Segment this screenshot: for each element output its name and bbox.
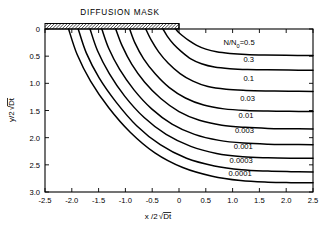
x-axis-title: x /2√Dt bbox=[145, 212, 172, 221]
x-tick-label: -1.5 bbox=[92, 196, 105, 205]
x-tick-label: 2.0 bbox=[281, 196, 292, 205]
x-tick-label: 2.5 bbox=[308, 196, 319, 205]
y-tick-label: 0.5 bbox=[29, 52, 40, 61]
y-tick-label: 0 bbox=[36, 25, 40, 34]
x-tick-label: -1.0 bbox=[119, 196, 132, 205]
contour-value-label: N/N0=0.5 bbox=[223, 38, 254, 49]
x-tick-label: -0.5 bbox=[146, 196, 159, 205]
y-tick-label: 1.5 bbox=[29, 107, 40, 116]
x-tick-label: 0 bbox=[177, 196, 181, 205]
y-axis-title: y/2√Dt bbox=[7, 97, 16, 122]
y-tick-label: 1.0 bbox=[29, 79, 40, 88]
x-tick-label: -2.0 bbox=[65, 196, 78, 205]
y-tick-labels: 00.51.01.52.02.53.0 bbox=[29, 25, 40, 197]
y-tick-label: 2.0 bbox=[29, 134, 40, 143]
x-tick-label: 0.5 bbox=[201, 196, 212, 205]
x-axis-title-text: x /2√Dt bbox=[145, 212, 172, 221]
y-tick-label: 3.0 bbox=[29, 188, 40, 197]
contour-value-label: 0.03 bbox=[240, 94, 255, 103]
contour-value-label: 0.1 bbox=[243, 74, 254, 83]
contour-value-label: 0.001 bbox=[234, 142, 253, 151]
contour-curve bbox=[163, 29, 313, 70]
contour-value-label: 0.3 bbox=[243, 55, 254, 64]
contour-curves bbox=[69, 29, 313, 183]
diffusion-contour-figure: -2.5-2.0-1.5-1.0-0.500.51.01.52.02.5 00.… bbox=[0, 0, 336, 226]
contour-value-label: 0.0003 bbox=[230, 156, 253, 165]
y-axis-title-text: y/2√Dt bbox=[7, 97, 16, 122]
contour-value-label: 0.0001 bbox=[228, 169, 251, 178]
x-tick-labels: -2.5-2.0-1.5-1.0-0.500.51.01.52.02.5 bbox=[38, 196, 318, 205]
contour-curve bbox=[78, 29, 313, 172]
contour-value-label: 0.01 bbox=[239, 111, 254, 120]
x-tick-label: -2.5 bbox=[38, 196, 51, 205]
diffusion-mask-band bbox=[45, 24, 179, 30]
x-tick-label: 1.5 bbox=[254, 196, 265, 205]
contour-value-label: 0.003 bbox=[235, 126, 254, 135]
contour-plot-svg: -2.5-2.0-1.5-1.0-0.500.51.01.52.02.5 00.… bbox=[0, 0, 336, 226]
y-tick-label: 2.5 bbox=[29, 161, 40, 170]
diffusion-mask-title-text: DIFFUSION MASK bbox=[80, 8, 159, 17]
diffusion-mask-title: DIFFUSION MASK bbox=[80, 8, 159, 17]
curve-value-labels: N/N0=0.50.30.10.030.010.0030.0010.00030.… bbox=[223, 38, 255, 177]
x-tick-label: 1.0 bbox=[227, 196, 238, 205]
contour-curve bbox=[116, 29, 313, 129]
